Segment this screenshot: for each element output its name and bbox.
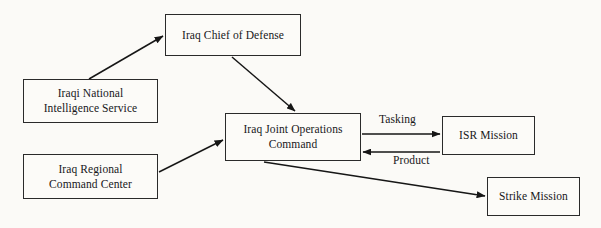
edge-label-tasking: Tasking	[379, 113, 416, 125]
node-iraq-joint-operations-command[interactable]: Iraq Joint Operations Command	[225, 113, 361, 161]
diagram-canvas: Iraq Chief of Defense Iraqi National Int…	[0, 0, 601, 228]
node-label-isr-mission: ISR Mission	[459, 128, 518, 143]
edge-regional-to-joint-ops	[159, 140, 223, 172]
node-isr-mission[interactable]: ISR Mission	[442, 116, 535, 155]
edge-chief-to-joint-ops	[232, 57, 295, 111]
edge-joint-ops-to-strike	[264, 162, 485, 196]
node-label-iraq-regional-command-center: Iraq Regional Command Center	[49, 162, 132, 191]
node-iraq-regional-command-center[interactable]: Iraq Regional Command Center	[23, 154, 158, 199]
edge-label-product: Product	[393, 154, 429, 166]
node-label-iraq-joint-operations-command: Iraq Joint Operations Command	[243, 122, 342, 151]
node-iraqi-national-intelligence-service[interactable]: Iraqi National Intelligence Service	[23, 79, 158, 123]
node-iraq-chief-of-defense[interactable]: Iraq Chief of Defense	[165, 14, 301, 56]
node-label-iraqi-national-intelligence-service: Iraqi National Intelligence Service	[44, 86, 138, 115]
node-strike-mission[interactable]: Strike Mission	[487, 177, 580, 216]
node-label-strike-mission: Strike Mission	[499, 189, 568, 204]
edge-inis-to-chief	[89, 36, 163, 79]
node-label-iraq-chief-of-defense: Iraq Chief of Defense	[182, 28, 284, 43]
